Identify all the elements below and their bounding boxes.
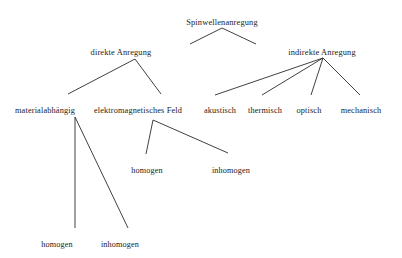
tree-edge-direkt-to-material (68, 59, 135, 94)
tree-node-em_inhom: inhomogen (212, 166, 250, 176)
tree-edge-root-to-direkt (190, 28, 222, 44)
tree-edge-indirekt-to-akust (215, 58, 323, 95)
tree-edge-indirekt-to-mech (323, 58, 360, 95)
tree-node-direkt: direkte Anregung (91, 48, 152, 58)
tree-node-therm: thermisch (248, 106, 282, 116)
tree-edge-indirekt-to-opt (311, 58, 323, 95)
tree-node-mat_hom: homogen (41, 240, 73, 250)
tree-node-em_hom: homogen (131, 166, 163, 176)
tree-node-root: Spinwellenanregung (186, 18, 258, 28)
tree-node-emfeld: elektromagnetisches Feld (94, 106, 182, 116)
tree-node-material: materialabhängig (15, 106, 75, 116)
tree-edge-emfeld-to-em_inhom (153, 120, 228, 153)
tree-edge-material-to-mat_inhom (75, 117, 128, 228)
tree-node-opt: optisch (296, 106, 321, 116)
diagram-canvas: Spinwellenanregungdirekte Anregungindire… (0, 0, 402, 258)
tree-node-akust: akustisch (204, 106, 236, 116)
tree-edges-layer (0, 0, 402, 258)
tree-edge-root-to-indirekt (222, 28, 256, 44)
tree-edge-emfeld-to-em_hom (146, 120, 153, 154)
tree-node-mech: mechanisch (341, 106, 382, 116)
tree-edge-direkt-to-emfeld (135, 59, 161, 94)
tree-node-mat_inhom: inhomogen (101, 240, 139, 250)
tree-node-indirekt: indirekte Anregung (288, 48, 356, 58)
tree-edge-indirekt-to-therm (262, 58, 323, 95)
